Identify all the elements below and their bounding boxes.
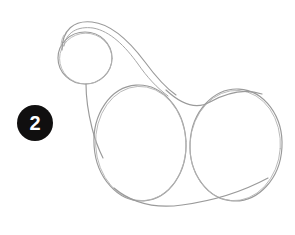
body-oval-rear-shape bbox=[187, 87, 285, 204]
step-number-badge: 2 bbox=[17, 105, 53, 141]
belly-line-shape bbox=[114, 178, 268, 206]
drawing-tutorial-step: 2 bbox=[0, 0, 295, 235]
mane-inner-arc-shape bbox=[64, 28, 168, 96]
step-number-label: 2 bbox=[29, 113, 40, 133]
body-oval-front-shape bbox=[90, 82, 190, 204]
head-circle-sketch-echo bbox=[60, 33, 112, 84]
